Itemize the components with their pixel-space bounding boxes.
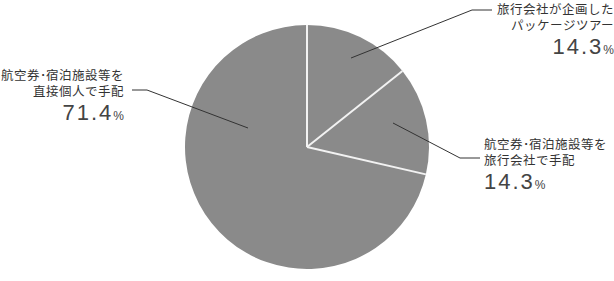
label-line: 旅行会社が企画した <box>497 2 614 18</box>
label-line: 航空券･宿泊施設等を <box>1 68 124 84</box>
slice-label-agency-arranged: 航空券･宿泊施設等を 旅行会社で手配 14.3% <box>484 137 607 196</box>
slice-percentage: 14.3% <box>497 33 614 61</box>
slice-percentage: 71.4% <box>1 99 124 127</box>
label-line: 旅行会社で手配 <box>484 153 607 169</box>
label-line: パッケージツアー <box>497 18 614 34</box>
label-line: 航空券･宿泊施設等を <box>484 137 607 153</box>
slice-label-package-tour: 旅行会社が企画した パッケージツアー 14.3% <box>497 2 614 61</box>
slice-label-self-arranged: 航空券･宿泊施設等を 直接個人で手配 71.4% <box>1 68 124 127</box>
slice-percentage: 14.3% <box>484 168 607 196</box>
label-line: 直接個人で手配 <box>1 84 124 100</box>
